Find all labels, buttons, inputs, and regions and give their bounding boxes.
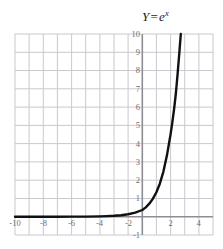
x-tick-label-neg8: -8 <box>34 219 53 228</box>
y-tick-label-5: 5 <box>126 121 140 130</box>
y-tick-label-7: 7 <box>126 85 140 94</box>
x-tick-label-neg6: -6 <box>62 219 81 228</box>
x-tick-label-neg2: -2 <box>119 219 138 228</box>
y-tick-label-10: 10 <box>126 30 140 39</box>
plot-canvas <box>0 0 223 249</box>
vertical-gridlines <box>15 34 213 235</box>
y-tick-label-9: 9 <box>126 48 140 57</box>
y-tick-label-2: 2 <box>126 176 140 185</box>
y-tick-label-8: 8 <box>126 66 140 75</box>
y-tick-label-1: 1 <box>126 194 140 203</box>
y-tick-label-neg1: -1 <box>126 231 140 240</box>
x-tick-label-neg4: -4 <box>90 219 109 228</box>
x-tick-label-2: 2 <box>161 219 180 228</box>
y-tick-label-6: 6 <box>126 103 140 112</box>
function-plot-figure: Y=ex <box>0 0 223 249</box>
x-tick-label-neg10: -10 <box>5 219 25 228</box>
y-tick-label-4: 4 <box>126 140 140 149</box>
y-tick-label-3: 3 <box>126 158 140 167</box>
x-tick-label-4: 4 <box>189 219 208 228</box>
